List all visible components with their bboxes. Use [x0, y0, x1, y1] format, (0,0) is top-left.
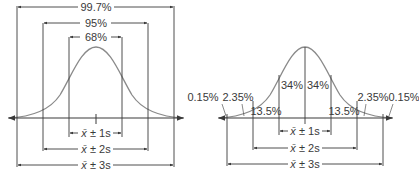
diagram-canvas: 99.7% 95% 68% x̄ ± 1s x̄ ± 2s x̄ ± 3s	[0, 0, 419, 183]
right-label-mean-2s: x̄ ± 2s	[289, 142, 320, 154]
left-bracket-1s: x̄ ± 1s	[70, 127, 121, 139]
right-label-mean-1s: x̄ ± 1s	[289, 125, 320, 137]
leader-line-right-2-35	[364, 104, 366, 116]
left-bracket-95: 95%	[44, 17, 147, 29]
right-label-mean-3s: x̄ ± 3s	[289, 158, 320, 170]
label-mean-1s: x̄ ± 1s	[80, 127, 111, 139]
region-label-left-13-5: 13.5%	[250, 105, 281, 117]
label-mean-3s: x̄ ± 3s	[80, 159, 111, 171]
region-label-right-2-35: 2.35%	[357, 91, 388, 103]
region-label-left-34: 34%	[281, 79, 303, 91]
left-bell-curve	[8, 47, 184, 118]
left-bracket-68: 68%	[70, 31, 121, 43]
right-bracket-1s: x̄ ± 1s	[280, 125, 330, 137]
right-bracket-3s: x̄ ± 3s	[228, 158, 382, 170]
left-bracket-99-7: 99.7%	[18, 1, 173, 13]
region-label-right-34: 34%	[307, 79, 329, 91]
leader-line-left-tail	[222, 104, 226, 116]
label-95-percent: 95%	[85, 17, 107, 29]
region-label-right-13-5: 13.5%	[328, 105, 359, 117]
left-bracket-3s: x̄ ± 3s	[18, 159, 173, 171]
label-99-7-percent: 99.7%	[80, 1, 111, 13]
region-label-left-2-35: 2.35%	[222, 91, 253, 103]
region-label-right-tail: 0.15%	[388, 91, 419, 103]
label-68-percent: 68%	[85, 31, 107, 43]
left-bracket-2s: x̄ ± 2s	[44, 143, 147, 155]
left-diagram: 99.7% 95% 68% x̄ ± 1s x̄ ± 2s x̄ ± 3s	[8, 1, 184, 171]
label-mean-2s: x̄ ± 2s	[80, 143, 111, 155]
right-bell-curve	[218, 47, 393, 118]
region-label-left-tail: 0.15%	[187, 91, 218, 103]
right-diagram: 0.15% 2.35% 13.5% 34% 34% 13.5% 2.35% 0.…	[187, 47, 419, 170]
leader-line-right-tail	[389, 104, 393, 116]
right-bracket-2s: x̄ ± 2s	[254, 142, 356, 154]
